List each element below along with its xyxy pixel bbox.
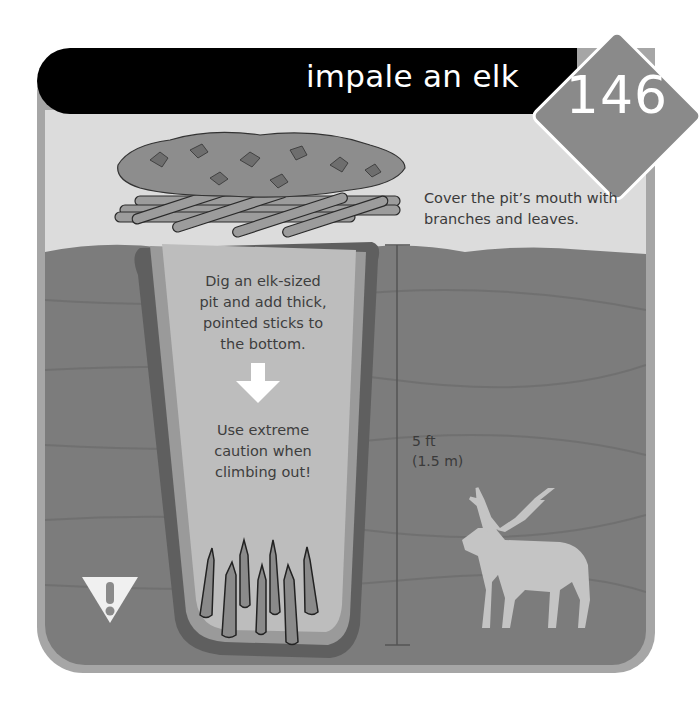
caption-line: Dig an elk-sized: [188, 271, 338, 292]
depth-metric: (1.5 m): [412, 451, 463, 471]
title-banner: impale an elk: [37, 48, 577, 114]
elk-silhouette-icon: [462, 488, 590, 628]
caption-line: the bottom.: [188, 334, 338, 355]
cover-caption: Cover the pit’s mouth with branches and …: [424, 188, 618, 230]
caption-line: pit and add thick,: [188, 292, 338, 313]
caption-line: pointed sticks to: [188, 313, 338, 334]
caption-line: climbing out!: [188, 462, 338, 483]
page-title: impale an elk: [306, 58, 519, 94]
caption-line: branches and leaves.: [424, 209, 618, 230]
caption-line: Use extreme: [188, 420, 338, 441]
caption-line: caution when: [188, 441, 338, 462]
depth-measurement: 5 ft (1.5 m): [412, 431, 463, 471]
dig-caption: Dig an elk-sized pit and add thick, poin…: [188, 271, 338, 355]
caption-line: Cover the pit’s mouth with: [424, 188, 618, 209]
caution-caption: Use extreme caution when climbing out!: [188, 420, 338, 483]
warning-triangle-icon: [82, 577, 138, 623]
depth-imperial: 5 ft: [412, 431, 463, 451]
tip-number: 146: [562, 65, 672, 125]
